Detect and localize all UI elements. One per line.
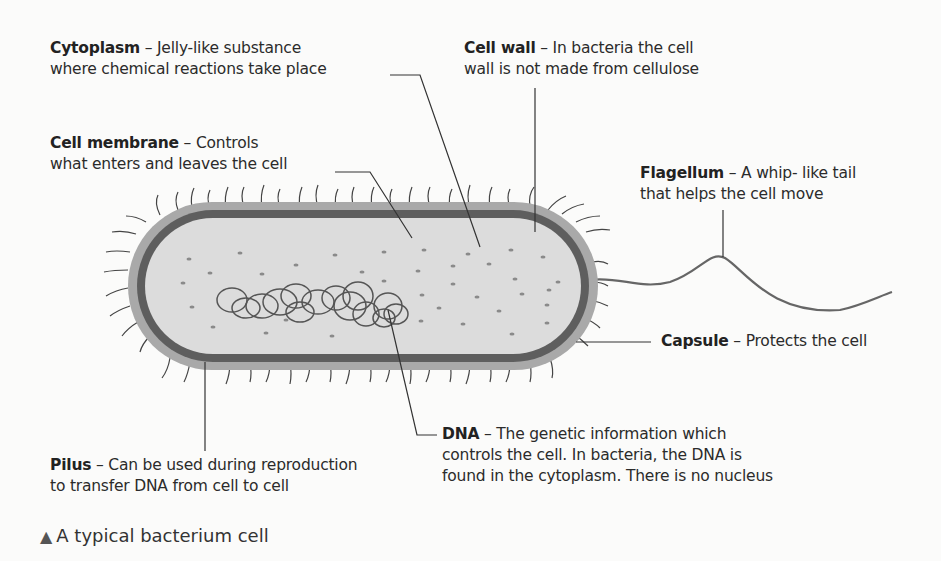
label-dna: DNA – The genetic information which cont… — [442, 424, 773, 487]
flagellum — [590, 256, 892, 310]
term: DNA — [442, 425, 479, 443]
label-capsule: Capsule – Protects the cell — [661, 331, 867, 352]
term: Cytoplasm — [50, 39, 140, 57]
triangle-marker-icon: ▲ — [40, 527, 52, 546]
cytoplasm — [145, 218, 581, 354]
caption-text: A typical bacterium cell — [56, 525, 268, 546]
term: Cell membrane — [50, 134, 179, 152]
label-cell-membrane: Cell membrane – Controls what enters and… — [50, 133, 287, 175]
term: Cell wall — [464, 39, 536, 57]
term: Pilus — [50, 456, 91, 474]
term: Capsule — [661, 332, 729, 350]
label-pilus: Pilus – Can be used during reproduction … — [50, 455, 357, 497]
label-cytoplasm: Cytoplasm – Jelly-like substance where c… — [50, 38, 327, 80]
label-flagellum: Flagellum – A whip- like tail that helps… — [640, 163, 856, 205]
label-cell-wall: Cell wall – In bacteria the cell wall is… — [464, 38, 699, 80]
term: Flagellum — [640, 164, 724, 182]
figure-caption: ▲A typical bacterium cell — [40, 525, 269, 546]
